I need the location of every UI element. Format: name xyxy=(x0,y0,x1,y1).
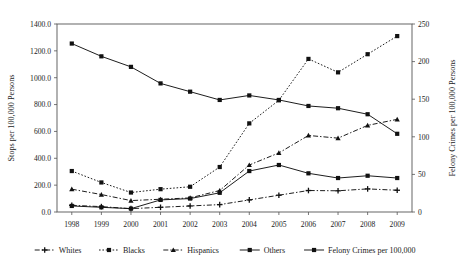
series-marker xyxy=(247,169,251,173)
series-marker xyxy=(188,90,192,94)
y2-axis-ticks: 050100150200250 xyxy=(412,20,430,217)
series-marker xyxy=(306,171,310,175)
series-marker xyxy=(99,205,103,209)
x-tick-label: 2000 xyxy=(123,220,138,229)
chart-legend: WhitesBlacksHispanicsOthersFelony Crimes… xyxy=(35,246,416,255)
legend-marker xyxy=(248,248,252,252)
line-chart: Stops per 100,000 Persons Felony Crimes … xyxy=(0,0,466,265)
legend-item-others[interactable]: Others xyxy=(240,246,285,255)
legend-item-felony-crimes-per-100-000[interactable]: Felony Crimes per 100,000 xyxy=(304,246,416,255)
y-axis-title-text: Stops per 100,000 Persons xyxy=(7,75,16,162)
legend-item-whites[interactable]: Whites xyxy=(35,246,82,255)
y2-tick-label: 0 xyxy=(418,208,422,217)
series-marker xyxy=(276,192,282,198)
series-marker xyxy=(129,207,133,211)
x-tick-label: 2007 xyxy=(330,220,345,229)
series-blacks xyxy=(70,34,400,195)
y-tick-label: 600.0 xyxy=(34,127,51,136)
series-marker xyxy=(187,203,193,209)
series-marker xyxy=(188,185,192,189)
x-tick-label: 2008 xyxy=(360,220,375,229)
series-marker xyxy=(395,176,399,180)
x-tick-label: 2001 xyxy=(153,220,168,229)
series-marker xyxy=(218,191,222,195)
series-marker xyxy=(69,187,74,192)
y-axis-ticks: 0.0200.0400.0600.0800.01000.01200.01400.… xyxy=(30,20,57,217)
series-marker xyxy=(70,169,74,173)
series-marker xyxy=(336,176,340,180)
x-tick-label: 2009 xyxy=(390,220,405,229)
chart-container: Stops per 100,000 Persons Felony Crimes … xyxy=(0,0,466,265)
series-marker xyxy=(366,112,370,116)
series-others xyxy=(70,163,400,211)
series-layer xyxy=(69,34,400,211)
x-tick-label: 1998 xyxy=(64,220,79,229)
series-marker xyxy=(158,81,162,85)
series-marker xyxy=(188,196,192,200)
y2-tick-label: 100 xyxy=(418,133,430,142)
series-hispanics xyxy=(69,117,400,203)
y2-axis-title-text: Felony Crimes per 100,000 Persons xyxy=(448,59,457,176)
legend-item-hispanics[interactable]: Hispanics xyxy=(163,246,219,255)
series-marker xyxy=(129,190,133,194)
series-marker xyxy=(128,198,133,203)
series-marker xyxy=(247,121,251,125)
legend-label: Hispanics xyxy=(187,246,219,255)
y-tick-label: 800.0 xyxy=(34,100,51,109)
x-tick-label: 2003 xyxy=(212,220,227,229)
series-marker xyxy=(129,65,133,69)
series-line xyxy=(72,44,397,134)
series-marker xyxy=(395,34,399,38)
series-marker xyxy=(217,202,223,208)
y-tick-label: 400.0 xyxy=(34,154,51,163)
y-tick-label: 200.0 xyxy=(34,181,51,190)
legend-label: Others xyxy=(264,246,285,255)
series-marker xyxy=(158,205,164,211)
series-marker xyxy=(276,150,281,155)
x-tick-label: 2004 xyxy=(242,220,257,229)
series-marker xyxy=(366,174,370,178)
legend-item-blacks[interactable]: Blacks xyxy=(99,246,145,255)
series-marker xyxy=(306,104,310,108)
series-marker xyxy=(99,180,103,184)
legend-label: Blacks xyxy=(123,246,145,255)
legend-label: Felony Crimes per 100,000 xyxy=(328,246,416,255)
x-axis-ticks: 1998199920002001200220032004200520062007… xyxy=(64,212,405,229)
y2-tick-label: 50 xyxy=(418,170,426,179)
series-marker xyxy=(70,204,74,208)
series-marker xyxy=(335,188,341,194)
y2-tick-label: 150 xyxy=(418,95,430,104)
legend-marker xyxy=(107,248,111,252)
legend-label: Whites xyxy=(59,246,82,255)
series-line xyxy=(72,36,397,192)
y2-tick-label: 250 xyxy=(418,20,430,29)
x-tick-label: 2006 xyxy=(301,220,316,229)
series-marker xyxy=(246,197,252,203)
series-marker xyxy=(395,132,399,136)
series-marker xyxy=(336,70,340,74)
x-tick-label: 2005 xyxy=(271,220,286,229)
series-marker xyxy=(70,41,74,45)
series-line xyxy=(72,119,397,200)
x-tick-label: 1999 xyxy=(94,220,109,229)
series-marker xyxy=(306,188,312,194)
series-marker xyxy=(247,93,251,97)
series-marker xyxy=(218,98,222,102)
series-marker xyxy=(365,186,371,192)
legend-marker xyxy=(42,247,48,253)
y2-tick-label: 200 xyxy=(418,57,430,66)
series-marker xyxy=(277,163,281,167)
series-marker xyxy=(306,57,310,61)
series-marker xyxy=(366,52,370,56)
y2-axis-title: Felony Crimes per 100,000 Persons xyxy=(448,59,457,176)
series-marker xyxy=(277,98,281,102)
y-tick-label: 1200.0 xyxy=(30,47,51,56)
y-tick-label: 0.0 xyxy=(42,208,52,217)
series-marker xyxy=(158,198,162,202)
series-marker xyxy=(394,187,400,193)
series-marker xyxy=(99,54,103,58)
series-marker xyxy=(218,165,222,169)
y-tick-label: 1400.0 xyxy=(30,20,51,29)
y-tick-label: 1000.0 xyxy=(30,74,51,83)
x-tick-label: 2002 xyxy=(183,220,198,229)
